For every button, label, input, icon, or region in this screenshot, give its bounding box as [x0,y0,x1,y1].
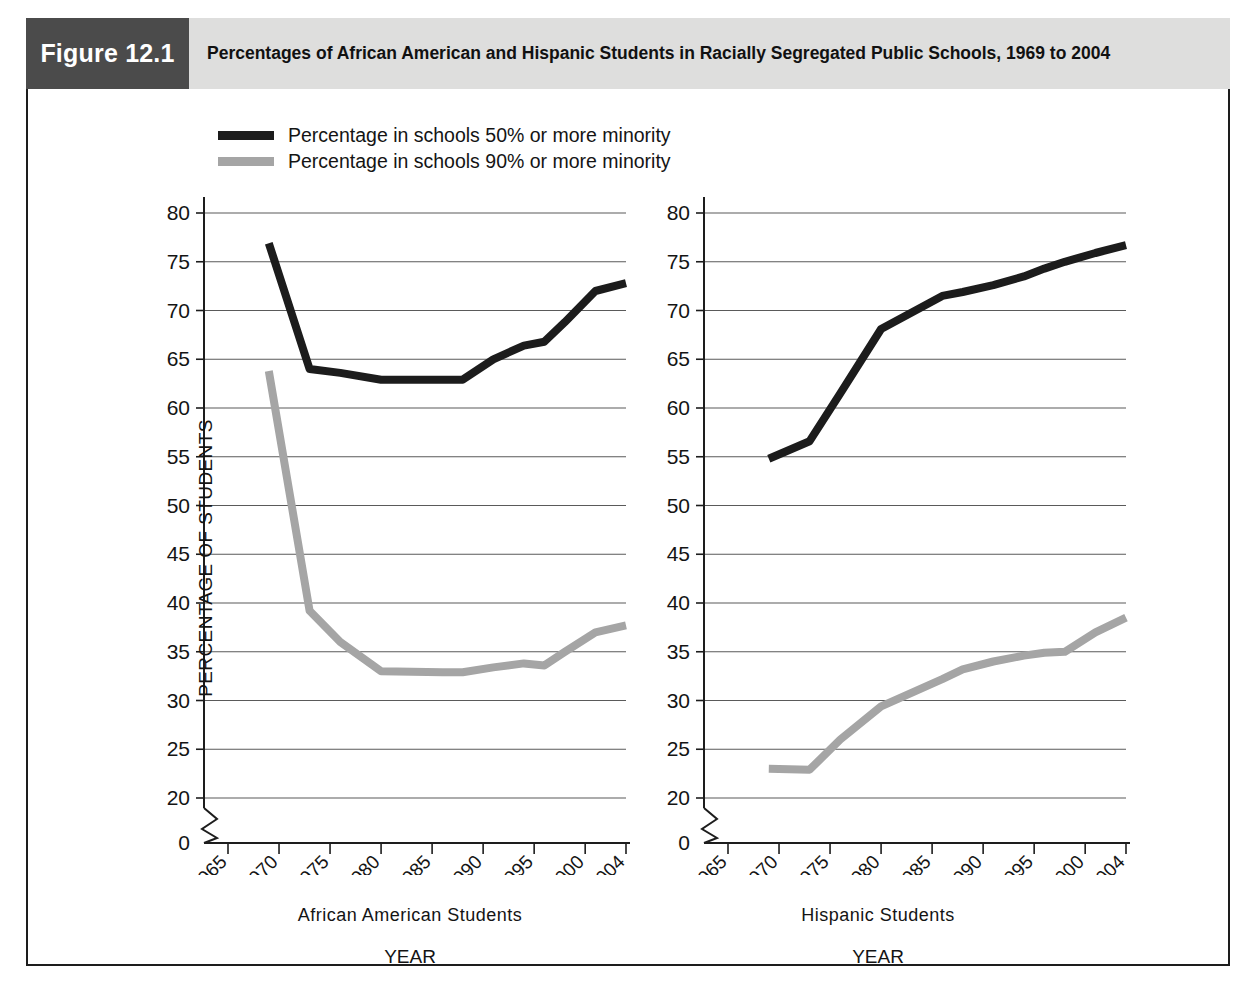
y-tick-label: 70 [167,299,190,322]
y-tick-label: 20 [167,786,190,809]
x-tick-label: 1990 [441,851,486,875]
y-tick-label: 65 [167,347,190,370]
y-tick-label: 50 [167,494,190,517]
x-tick-label: 1975 [788,851,833,875]
x-tick-label: 2000 [543,851,588,875]
figure-header: Figure 12.1 Percentages of African Ameri… [26,18,1230,89]
chart-panel-african-american: 2025303540455055606570758001965197019751… [130,195,650,875]
y-tick-label: 80 [667,201,690,224]
x-tick-label: 1970 [737,851,782,875]
chart-legend: Percentage in schools 50% or more minori… [218,122,738,174]
y-tick-label: 45 [167,542,190,565]
legend-label-50-percent: Percentage in schools 50% or more minori… [288,124,671,147]
x-tick-label: 2004 [584,851,629,875]
axis-break-icon [202,808,217,843]
y-tick-label: 65 [667,347,690,370]
y-tick-label: 25 [667,737,690,760]
y-tick-label: 55 [667,445,690,468]
x-tick-label: 2004 [1084,851,1129,875]
x-tick-label: 1980 [839,851,884,875]
y-tick-label: 25 [167,737,190,760]
figure-number-badge: Figure 12.1 [26,18,189,89]
y-tick-label: 75 [167,250,190,273]
y-tick-label: 45 [667,542,690,565]
y-tick-label: 50 [667,494,690,517]
legend-item-90-percent: Percentage in schools 90% or more minori… [218,148,738,174]
axis-break-icon [702,808,717,843]
x-tick-label: 1995 [992,851,1037,875]
figure-page: Figure 12.1 Percentages of African Ameri… [0,0,1257,1002]
x-tick-label: 1965 [686,851,731,875]
legend-label-90-percent: Percentage in schools 90% or more minori… [288,150,671,173]
y-tick-label-zero: 0 [178,831,190,854]
x-tick-label: 1975 [288,851,333,875]
x-tick-label: 1990 [941,851,986,875]
x-axis-title-right: YEAR [658,946,1098,968]
y-tick-label: 20 [667,786,690,809]
x-tick-label: 1985 [390,851,435,875]
x-tick-label: 1995 [492,851,537,875]
legend-swatch-gray [218,157,274,166]
panel-subtitle-hispanic: Hispanic Students [658,905,1098,926]
y-tick-label: 35 [667,640,690,663]
y-tick-label: 80 [167,201,190,224]
y-tick-label: 40 [167,591,190,614]
data-line-90-percent [269,371,626,672]
plot-area-hispanic: 2025303540455055606570758001965197019751… [630,195,1150,875]
y-axis-title: PERCENTAGE OF STUDENTS [195,408,217,708]
y-tick-label: 75 [667,250,690,273]
x-tick-label: 1970 [237,851,282,875]
x-tick-label: 1980 [339,851,384,875]
y-tick-label: 60 [667,396,690,419]
figure-title: Percentages of African American and Hisp… [207,42,1110,65]
x-tick-label: 1965 [186,851,231,875]
data-line-50-percent [769,245,1126,459]
x-tick-label: 1985 [890,851,935,875]
y-tick-label: 35 [167,640,190,663]
y-tick-label: 30 [167,689,190,712]
data-line-90-percent [769,618,1126,770]
panel-subtitle-african-american: African American Students [190,905,630,926]
x-axis-title-left: YEAR [190,946,630,968]
chart-panel-hispanic: 2025303540455055606570758001965197019751… [630,195,1150,875]
y-tick-label: 40 [667,591,690,614]
legend-swatch-dark [218,131,274,140]
y-tick-label-zero: 0 [678,831,690,854]
legend-item-50-percent: Percentage in schools 50% or more minori… [218,122,738,148]
x-tick-label: 2000 [1043,851,1088,875]
y-tick-label: 60 [167,396,190,419]
y-tick-label: 55 [167,445,190,468]
figure-title-bar: Percentages of African American and Hisp… [189,18,1230,89]
y-tick-label: 30 [667,689,690,712]
y-tick-label: 70 [667,299,690,322]
